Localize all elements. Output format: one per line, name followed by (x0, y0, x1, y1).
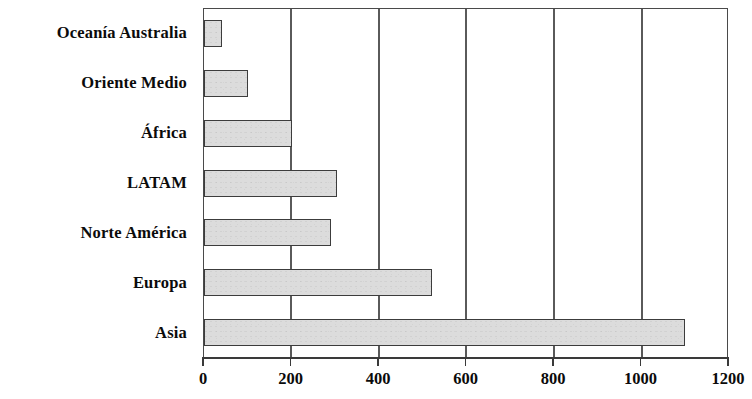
plot-area (203, 8, 728, 358)
x-axis-tick-400 (377, 357, 379, 366)
bar-norte-america (204, 219, 331, 246)
x-axis-tick-label-1200: 1200 (712, 369, 745, 389)
x-axis: 020040060080010001200 (203, 357, 728, 399)
bar-track (204, 208, 727, 258)
bar-track (204, 158, 727, 208)
category-label-norte-america: Norte América (0, 208, 196, 258)
x-axis-tick-800 (552, 357, 554, 366)
bar-oriente-medio (204, 70, 248, 97)
x-axis-tick-label-0: 0 (199, 369, 207, 389)
category-label-latam: LATAM (0, 158, 196, 208)
bar-asia (204, 319, 685, 346)
category-label-africa: África (0, 108, 196, 158)
x-axis-tick-600 (465, 357, 467, 366)
category-label-asia: Asia (0, 308, 196, 358)
bar-track (204, 258, 727, 308)
bar-latam (204, 170, 337, 197)
category-label-oriente-medio: Oriente Medio (0, 58, 196, 108)
bar-track (204, 108, 727, 158)
bar-africa (204, 120, 292, 147)
x-axis-tick-label-600: 600 (453, 369, 478, 389)
x-axis-tick-label-200: 200 (278, 369, 303, 389)
x-axis-tick-0 (202, 357, 204, 366)
x-axis-tick-label-1000: 1000 (624, 369, 657, 389)
bar-track (204, 9, 727, 59)
bar-oceania-australia (204, 20, 222, 47)
bar-track (204, 307, 727, 357)
x-axis-tick-label-400: 400 (366, 369, 391, 389)
bar-series (204, 9, 727, 357)
category-label-europa: Europa (0, 258, 196, 308)
x-axis-tick-label-800: 800 (541, 369, 566, 389)
horizontal-bar-chart: Oceanía Australia Oriente Medio África L… (0, 0, 752, 399)
x-axis-tick-200 (290, 357, 292, 366)
category-axis-labels: Oceanía Australia Oriente Medio África L… (0, 8, 196, 358)
bar-track (204, 59, 727, 109)
x-axis-tick-1000 (640, 357, 642, 366)
category-label-oceania-australia: Oceanía Australia (0, 8, 196, 58)
bar-europa (204, 269, 432, 296)
x-axis-tick-1200 (727, 357, 729, 366)
